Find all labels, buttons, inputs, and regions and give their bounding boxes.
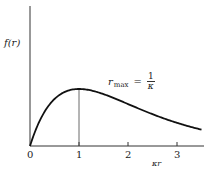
annotation-equals: = — [134, 76, 142, 87]
annotation-fraction: 1 κ — [147, 72, 155, 91]
fraction-denominator: κ — [148, 82, 154, 91]
annotation-r: r — [108, 76, 113, 87]
curve-line — [30, 89, 202, 146]
x-tick-label-1: 1 — [76, 150, 82, 160]
x-tick-label-2: 2 — [125, 150, 131, 160]
x-tick-label-3: 3 — [174, 150, 180, 160]
x-axis-label: κr — [152, 160, 161, 168]
plot-canvas — [0, 0, 209, 170]
rmax-annotation: r max = 1 κ — [108, 72, 155, 91]
y-axis-label: f(r) — [4, 38, 20, 48]
annotation-subscript: max — [114, 81, 129, 89]
x-tick-label-0: 0 — [27, 150, 33, 160]
